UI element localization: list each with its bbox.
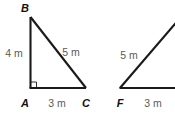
side-label-bc: 5 m <box>62 46 80 58</box>
side-label-f-base: 3 m <box>144 97 162 109</box>
figure-canvas: B A C 4 m 5 m 3 m F 5 m 3 m <box>0 0 175 115</box>
vertex-label-a: A <box>20 97 29 109</box>
side-label-ab: 4 m <box>5 47 23 59</box>
vertex-label-c: C <box>82 97 91 109</box>
side-label-ac: 3 m <box>48 97 66 109</box>
geometry-figure: B A C 4 m 5 m 3 m F 5 m 3 m <box>0 0 175 115</box>
vertex-label-f: F <box>117 97 124 109</box>
vertex-label-b: B <box>21 2 29 14</box>
side-label-f-hypotenuse: 5 m <box>120 49 138 61</box>
